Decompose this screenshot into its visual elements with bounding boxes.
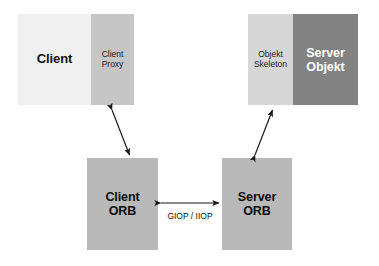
objekt-skeleton-label-line1: Objekt	[258, 49, 283, 59]
server-objekt-segment: Server Objekt	[293, 14, 358, 105]
client-label: Client	[37, 52, 73, 67]
server-objekt-label-line2: Objekt	[306, 60, 344, 74]
server-orb-label-line1: Server	[238, 190, 276, 204]
connector-client-proxy-to-client-orb	[112, 110, 130, 155]
client-orb-label-segment: Client ORB	[87, 158, 158, 250]
server-orb-label: Server ORB	[238, 190, 276, 218]
client-orb-label-line2: ORB	[109, 204, 136, 218]
client-orb-label: Client ORB	[105, 190, 139, 218]
client-orb-node: Client ORB	[87, 158, 158, 250]
client-node: Client Client Proxy	[18, 14, 134, 105]
connector-server-orb-to-objekt-skeleton	[255, 110, 273, 155]
client-orb-label-line1: Client	[105, 190, 139, 204]
diagram-canvas: Client Client Proxy Objekt Skeleton Serv…	[0, 0, 379, 266]
client-proxy-label: Client Proxy	[102, 50, 124, 69]
server-node: Objekt Skeleton Server Objekt	[248, 14, 358, 105]
server-orb-label-segment: Server ORB	[222, 158, 292, 250]
server-objekt-label: Server Objekt	[306, 46, 344, 74]
client-proxy-label-line1: Client	[102, 49, 124, 59]
server-orb-label-line2: ORB	[243, 204, 270, 218]
objekt-skeleton-label: Objekt Skeleton	[254, 50, 287, 69]
objekt-skeleton-label-line2: Skeleton	[254, 59, 287, 69]
client-label-segment: Client	[18, 14, 91, 105]
server-objekt-label-line1: Server	[306, 46, 344, 60]
client-proxy-segment: Client Proxy	[91, 14, 134, 105]
server-orb-node: Server ORB	[222, 158, 292, 250]
objekt-skeleton-segment: Objekt Skeleton	[248, 14, 293, 105]
giop-iiop-label: GIOP / IIOP	[156, 211, 224, 221]
client-proxy-label-line2: Proxy	[102, 59, 124, 69]
